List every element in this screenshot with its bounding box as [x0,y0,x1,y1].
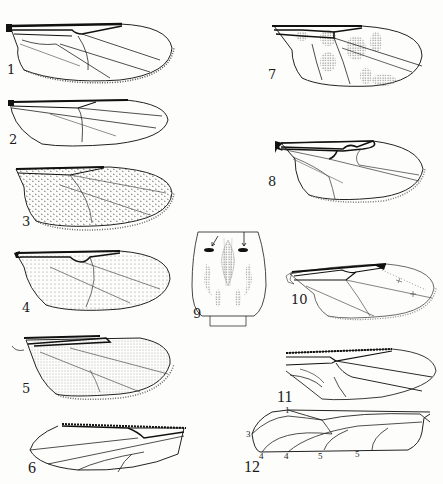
figure-plate: 1 2 3 [0,0,443,484]
figure-label-7: 7 [268,68,276,81]
figure-label-8: 8 [268,175,276,188]
vein-label-4b: 4 [284,452,289,461]
figure-label-5: 5 [22,382,30,395]
vein-label-5b: 5 [355,450,360,459]
figure-label-10: 10 [291,293,308,306]
wing-venation-figure-12 [248,408,443,460]
figure-label-1: 1 [7,63,15,76]
wing-figure-6 [28,420,188,476]
vein-label-3: 3 [246,430,251,439]
wing-figure-5 [10,334,175,404]
wing-figure-7 [272,22,437,92]
vein-label-5a: 5 [318,452,323,461]
wing-figure-10 [286,260,443,324]
figure-label-11: 11 [277,389,292,405]
figure-label-6: 6 [28,460,36,476]
figure-label-4: 4 [22,301,30,314]
wing-figure-4 [10,247,175,317]
wing-figure-11 [282,347,442,407]
figure-label-2: 2 [9,133,17,146]
wing-figure-1 [0,14,180,84]
vein-label-1: 1 [285,406,290,415]
figure-label-12: 12 [244,459,260,475]
figure-label-9: 9 [193,307,201,320]
wing-figure-8 [273,137,438,207]
wing-figure-2 [6,96,176,151]
wing-figure-3 [10,163,175,233]
figure-label-3: 3 [22,215,30,228]
